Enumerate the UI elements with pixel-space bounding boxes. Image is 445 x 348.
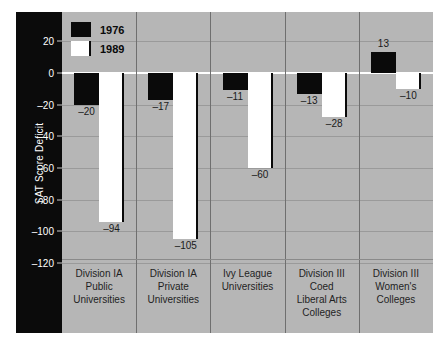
y-axis-tick-label: –120 [14,257,54,268]
bar-1976-5 [371,52,396,73]
bar-value-label: –94 [103,223,120,234]
y-axis: SAT Score Deficit 200–20–40–60–80–100–12… [16,12,62,333]
category-label-3: Ivy League Universities [210,267,284,293]
legend-label: 1976 [100,24,124,36]
bar-1989-2 [173,73,198,239]
y-axis-tick-label: 20 [14,36,54,47]
bar-value-label: –13 [301,95,318,106]
y-axis-tick-label: 0 [14,68,54,79]
legend-label: 1989 [100,43,124,55]
gridline [62,263,433,264]
legend-item-1976: 1976 [71,20,124,39]
bar-value-label: –17 [152,101,169,112]
legend: 1976 1989 [71,20,124,58]
category-label-1: Division IA Public Universities [62,267,136,306]
bar-value-label: –60 [252,169,269,180]
y-axis-tick-label: –100 [14,226,54,237]
y-axis-tick-label: –20 [14,99,54,110]
y-axis-tick-label: –60 [14,162,54,173]
bar-1976-4 [297,73,322,94]
category-label-5: Division III Women's Colleges [359,267,433,306]
black-square-swatch-icon [71,22,91,37]
bar-value-label: –105 [175,240,197,251]
category-label-4: Division III Coed Liberal Arts Colleges [285,267,359,319]
legend-item-1989: 1989 [71,39,124,58]
bar-1989-5 [396,73,421,89]
bar-1976-3 [223,73,248,90]
category-strip-separator [62,259,433,260]
category-label-2: Division IA Private Universities [136,267,210,306]
y-axis-tick-label: –40 [14,131,54,142]
white-square-swatch-icon [71,41,91,56]
bar-1989-3 [248,73,273,168]
bar-value-label: –20 [78,106,95,117]
y-axis-tick-label: –80 [14,194,54,205]
bar-value-label: –10 [400,90,417,101]
bar-value-label: –11 [227,91,243,102]
bar-1989-1 [99,73,124,222]
bar-1989-4 [322,73,347,117]
bar-value-label: –28 [326,118,343,129]
bar-1976-1 [74,73,99,105]
chart-figure: SAT Score Deficit 200–20–40–60–80–100–12… [0,0,445,348]
bar-1976-2 [148,73,173,100]
plot-area: –20–94–17–105–11–60–13–2813–10 Division … [62,12,433,333]
bar-value-label: 13 [378,38,389,49]
